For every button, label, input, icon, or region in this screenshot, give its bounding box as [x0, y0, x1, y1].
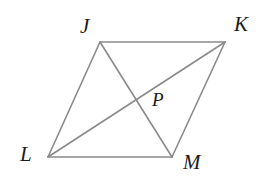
vertex-label-k: K	[234, 14, 248, 35]
vertex-label-l: L	[20, 144, 32, 165]
vertex-label-m: M	[183, 152, 201, 173]
vertex-label-j: J	[80, 16, 89, 37]
geometry-figure: J K L M P	[0, 0, 276, 186]
vertex-label-p: P	[152, 90, 164, 109]
